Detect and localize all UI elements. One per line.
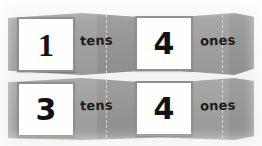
place-value-foldable-scene: 1 tens 4 ones 3 tens 4 ones (0, 0, 262, 146)
ones-digit-card[interactable]: 4 (135, 81, 193, 136)
ones-digit-card[interactable]: 4 (135, 16, 193, 71)
tens-digit-card[interactable]: 3 (17, 82, 75, 137)
tens-digit-card[interactable]: 1 (17, 17, 75, 72)
ones-digit-value: 4 (154, 94, 175, 124)
tens-place-label: tens (80, 32, 113, 48)
foldable-row-bottom[interactable]: 3 tens 4 ones (8, 78, 254, 140)
tens-digit-value: 3 (36, 95, 57, 125)
ones-place-label: ones (200, 97, 236, 113)
tens-digit-value: 1 (38, 29, 54, 61)
tens-place-label: tens (80, 97, 113, 113)
ones-place-label: ones (200, 32, 236, 48)
ones-digit-value: 4 (154, 29, 175, 59)
foldable-row-top[interactable]: 1 tens 4 ones (8, 13, 254, 75)
